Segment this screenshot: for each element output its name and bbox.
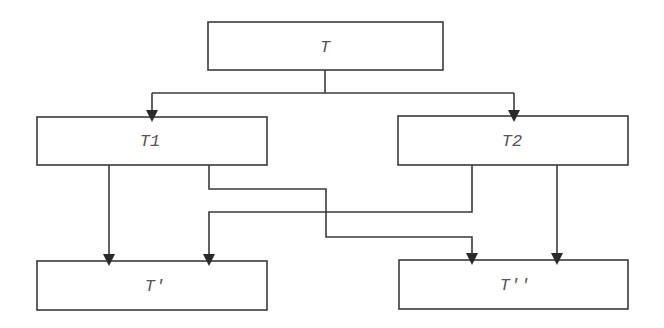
node-label: T2 xyxy=(502,132,522,151)
edge-T1-to-Tdoubleprime xyxy=(209,165,472,253)
edge-T2-to-Tprime xyxy=(209,165,472,254)
node-Tprime: T' xyxy=(37,261,267,310)
node-T2: T2 xyxy=(398,116,628,165)
node-label: T xyxy=(320,38,331,57)
node-label: T'' xyxy=(500,276,531,295)
node-T1: T1 xyxy=(37,117,267,165)
diagram-canvas: T T1 T2 T' T'' xyxy=(0,0,664,328)
node-Tdoubleprime: T'' xyxy=(399,260,628,309)
node-label: T1 xyxy=(140,132,160,151)
node-label: T' xyxy=(145,277,165,296)
node-T: T xyxy=(208,22,443,70)
